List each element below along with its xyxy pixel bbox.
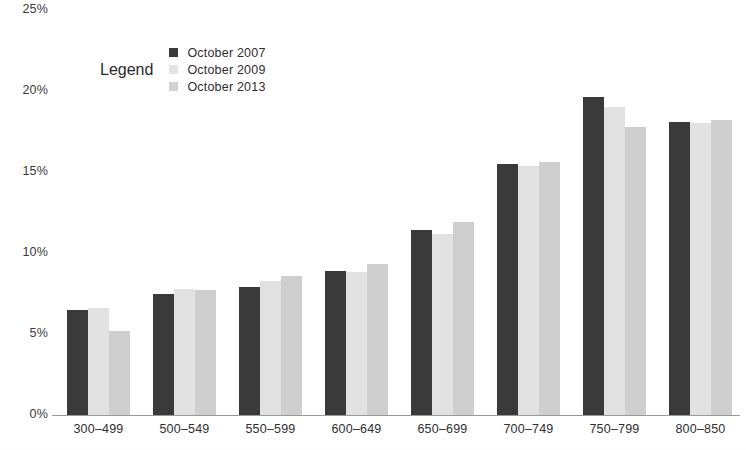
bar: [239, 287, 260, 415]
legend: Legend October 2007October 2009October 2…: [100, 44, 266, 95]
legend-item: October 2007: [169, 44, 265, 61]
bar-group-bars: [325, 10, 388, 415]
bar: [346, 272, 367, 415]
y-axis-tick-label: 20%: [4, 83, 48, 97]
bar-group: [583, 10, 646, 415]
x-axis-tick-label: 550–599: [226, 422, 316, 436]
bar: [432, 234, 453, 415]
y-axis-tick-label: 25%: [4, 2, 48, 16]
x-axis-line: [52, 415, 740, 416]
bar: [109, 331, 130, 415]
legend-item-label: October 2007: [187, 46, 265, 60]
y-axis-tick-label: 10%: [4, 245, 48, 259]
legend-swatch-series-1: [169, 48, 178, 57]
bar: [690, 123, 711, 415]
x-axis-tick-label: 700–749: [484, 422, 574, 436]
bar-group-bars: [583, 10, 646, 415]
legend-item: October 2009: [169, 61, 265, 78]
legend-swatch-series-3: [169, 82, 178, 91]
y-axis-tick-label: 0%: [4, 407, 48, 421]
legend-title: Legend: [100, 61, 153, 79]
bar: [625, 127, 646, 415]
bar: [153, 294, 174, 416]
bar: [518, 166, 539, 415]
x-axis-tick-label: 500–549: [140, 422, 230, 436]
legend-items: October 2007October 2009October 2013: [169, 44, 265, 95]
x-axis-tick-label: 750–799: [570, 422, 660, 436]
bar: [669, 122, 690, 415]
bar: [711, 120, 732, 415]
bar: [260, 281, 281, 415]
legend-item-label: October 2013: [187, 80, 265, 94]
legend-item: October 2013: [169, 78, 265, 95]
bar-group: [411, 10, 474, 415]
bar-group-bars: [669, 10, 732, 415]
bar: [67, 310, 88, 415]
legend-item-label: October 2009: [187, 63, 265, 77]
bar-chart: 0%5%10%15%20%25% 300–499500–549550–59960…: [0, 0, 746, 450]
bar: [604, 107, 625, 415]
bar-group: [497, 10, 560, 415]
x-axis-tick-label: 600–649: [312, 422, 402, 436]
x-axis-tick-label: 650–699: [398, 422, 488, 436]
bar: [281, 276, 302, 415]
y-axis-tick-label: 15%: [4, 164, 48, 178]
y-axis-tick-label: 5%: [4, 326, 48, 340]
bar: [411, 230, 432, 415]
bar: [539, 162, 560, 415]
bar: [497, 164, 518, 415]
bar-group-bars: [411, 10, 474, 415]
bar: [174, 289, 195, 415]
bar-group: [325, 10, 388, 415]
bar: [583, 97, 604, 415]
bar-group: [669, 10, 732, 415]
bar: [367, 264, 388, 415]
bar-group-bars: [497, 10, 560, 415]
bar: [325, 271, 346, 415]
bar: [453, 222, 474, 415]
bar: [195, 290, 216, 415]
bar: [88, 308, 109, 415]
legend-swatch-series-2: [169, 65, 178, 74]
x-axis-tick-label: 300–499: [54, 422, 144, 436]
x-axis-tick-label: 800–850: [656, 422, 746, 436]
